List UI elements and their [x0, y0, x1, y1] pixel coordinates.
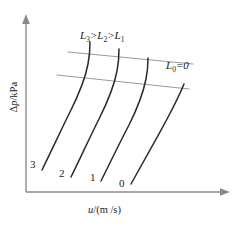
x-axis-title: u/(m /s)	[88, 205, 121, 216]
figure-container: Δp/kPa u/(m /s) L3>L2>L1 L0=0 3 2 1 0	[0, 0, 239, 232]
y-axis-unit: /kPa	[8, 82, 19, 101]
data-curve-0	[131, 84, 184, 184]
sub-3: 3	[86, 35, 90, 44]
y-axis-title: Δp/kPa	[9, 67, 20, 127]
curve-label-2: 2	[59, 168, 65, 179]
x-axis-arrowhead	[220, 188, 230, 196]
y-axis-variable: p	[8, 101, 19, 106]
zero-length-annotation: L0=0	[166, 60, 189, 74]
curve-label-3: 3	[30, 159, 36, 170]
data-curve-3	[42, 42, 90, 170]
y-axis-delta: Δ	[8, 106, 19, 113]
lower-crossing-line	[57, 75, 189, 89]
curve-label-1: 1	[90, 172, 96, 183]
x-axis-unit: /(m /s)	[93, 204, 121, 215]
y-axis-arrowhead	[22, 14, 30, 24]
curve-label-0: 0	[119, 178, 125, 189]
series-order-annotation: L3>L2>L1	[80, 30, 124, 44]
sub-0: 0	[172, 65, 176, 74]
sub-2: 2	[103, 35, 107, 44]
data-curve-1	[101, 58, 148, 181]
sub-1: 1	[121, 35, 125, 44]
